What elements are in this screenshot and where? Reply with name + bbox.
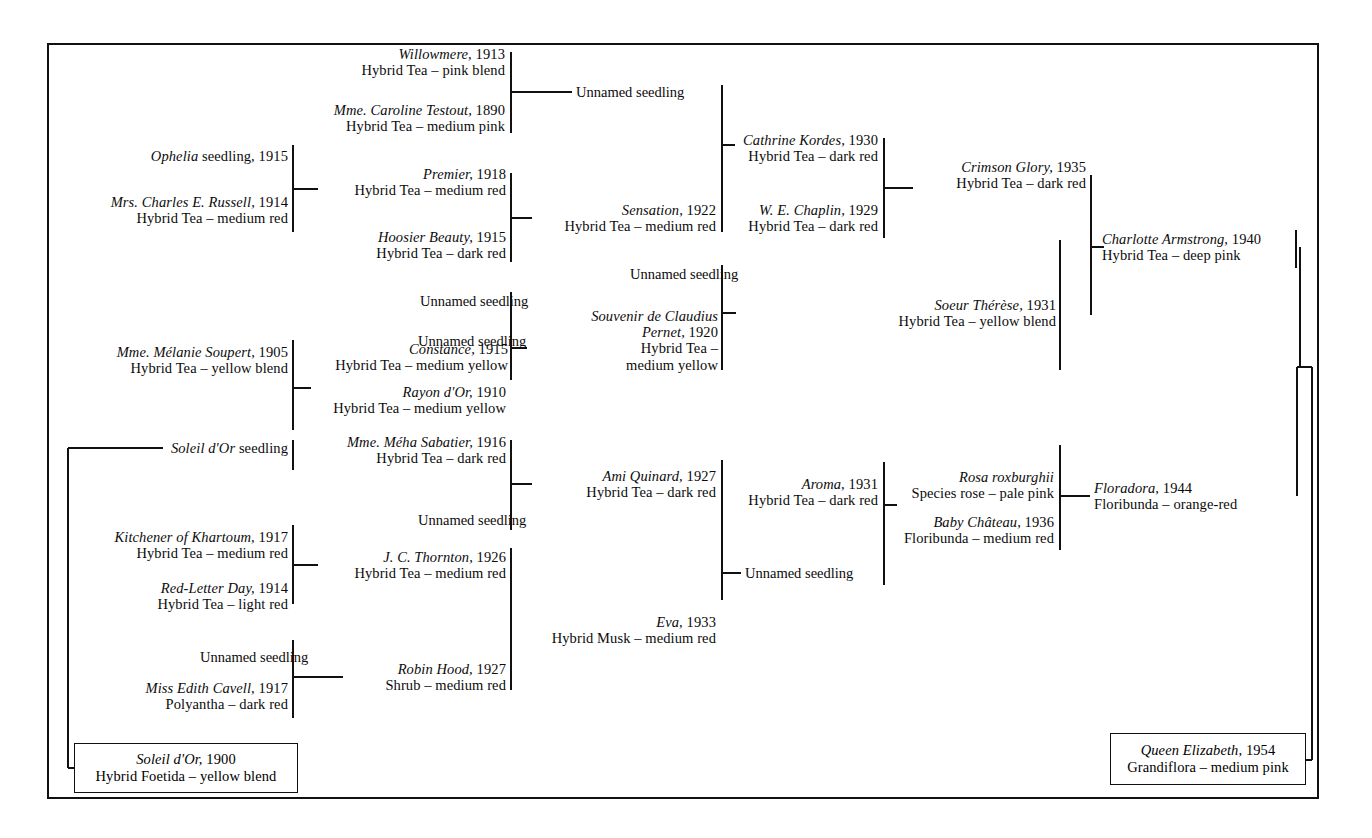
node-mme-caroline-testout-class: Hybrid Tea – medium pink [205, 118, 505, 134]
node-baby-chateau: Baby Château, 1936 Floribunda – medium r… [870, 514, 1054, 546]
node-mme-melanie-soupert-name: Mme. Mélanie Soupert, 1905 [20, 344, 288, 360]
node-rosa-roxburghii-name: Rosa roxburghii [870, 469, 1054, 485]
node-unnamed-seedling-claudius-label: Unnamed seedling [630, 266, 718, 282]
node-eva: Eva, 1933 Hybrid Musk – medium red [500, 614, 716, 646]
node-ophelia-seedling: Ophelia seedling, 1915 [40, 148, 288, 164]
node-mme-caroline-testout: Mme. Caroline Testout, 1890 Hybrid Tea –… [205, 102, 505, 134]
node-ami-quinard-class: Hybrid Tea – dark red [530, 484, 716, 500]
node-hoosier-beauty-class: Hybrid Tea – dark red [300, 245, 506, 261]
pedigree-chart: Willowmere, 1913 Hybrid Tea – pink blend… [0, 0, 1372, 838]
node-mrs-charles-e-russell: Mrs. Charles E. Russell, 1914 Hybrid Tea… [20, 194, 288, 226]
node-robin-hood-class: Shrub – medium red [346, 677, 506, 693]
node-soleil-dor-class: Hybrid Foetida – yellow blend [96, 768, 277, 785]
node-soleil-dor-seedling-name: Soleil d'Or seedling [140, 440, 288, 456]
node-red-letter-day-class: Hybrid Tea – light red [20, 596, 288, 612]
node-unnamed-seedling-robinhood: Unnamed seedling [200, 649, 288, 665]
node-aroma: Aroma, 1931 Hybrid Tea – dark red [690, 476, 878, 508]
node-cathrine-kordes-class: Hybrid Tea – dark red [680, 148, 878, 164]
node-rosa-roxburghii: Rosa roxburghii Species rose – pale pink [870, 469, 1054, 501]
node-robin-hood-name: Robin Hood, 1927 [346, 661, 506, 677]
node-souvenir-de-claudius-pernet-name2: Pernet, 1920 [560, 324, 718, 340]
node-unnamed-seedling-top-label: Unnamed seedling [576, 84, 786, 100]
node-mrs-charles-e-russell-name: Mrs. Charles E. Russell, 1914 [20, 194, 288, 210]
node-premier: Premier, 1918 Hybrid Tea – medium red [300, 166, 506, 198]
node-jc-thornton: J. C. Thornton, 1926 Hybrid Tea – medium… [300, 549, 506, 581]
node-kitchener-of-khartoum-name: Kitchener of Khartoum, 1917 [20, 529, 288, 545]
node-kitchener-of-khartoum: Kitchener of Khartoum, 1917 Hybrid Tea –… [20, 529, 288, 561]
node-crimson-glory-class: Hybrid Tea – dark red [890, 175, 1086, 191]
node-unnamed-seedling-claudius: Unnamed seedling [630, 266, 718, 282]
node-soleil-dor-seedling: Soleil d'Or seedling [140, 440, 288, 456]
node-mme-meha-sabatier-name: Mme. Méha Sabatier, 1916 [300, 434, 506, 450]
node-aroma-name: Aroma, 1931 [690, 476, 878, 492]
node-jc-thornton-name: J. C. Thornton, 1926 [300, 549, 506, 565]
node-soeur-therese-name: Soeur Thérèse, 1931 [860, 297, 1056, 313]
node-miss-edith-cavell-class: Polyantha – dark red [60, 696, 288, 712]
node-rayon-dor: Rayon d'Or, 1910 Hybrid Tea – medium yel… [300, 384, 506, 416]
node-unnamed-seedling-constance: Unnamed seedling [420, 293, 508, 309]
node-charlotte-armstrong: Charlotte Armstrong, 1940 Hybrid Tea – d… [1102, 231, 1322, 263]
node-willowmere-class: Hybrid Tea – pink blend [205, 62, 505, 78]
node-unnamed-seedling-aroma-label: Unnamed seedling [745, 565, 885, 581]
node-ami-quinard-name: Ami Quinard, 1927 [530, 468, 716, 484]
node-constance-class: Hybrid Tea – medium yellow [290, 357, 508, 373]
node-crimson-glory-name: Crimson Glory, 1935 [890, 159, 1086, 175]
node-ami-quinard: Ami Quinard, 1927 Hybrid Tea – dark red [530, 468, 716, 500]
node-miss-edith-cavell: Miss Edith Cavell, 1917 Polyantha – dark… [60, 680, 288, 712]
node-unnamed-seedling-constance-label: Unnamed seedling [420, 293, 508, 309]
node-souvenir-de-claudius-pernet-class2: medium yellow [560, 356, 718, 372]
node-unnamed-seedling-rayon: Unnamed seedling [418, 333, 506, 349]
node-soeur-therese: Soeur Thérèse, 1931 Hybrid Tea – yellow … [860, 297, 1056, 329]
node-soeur-therese-class: Hybrid Tea – yellow blend [860, 313, 1056, 329]
node-unnamed-seedling-ami-label: Unnamed seedling [418, 512, 506, 528]
node-mme-meha-sabatier: Mme. Méha Sabatier, 1916 Hybrid Tea – da… [300, 434, 506, 466]
node-rayon-dor-class: Hybrid Tea – medium yellow [300, 400, 506, 416]
node-mme-meha-sabatier-class: Hybrid Tea – dark red [300, 450, 506, 466]
node-kitchener-of-khartoum-class: Hybrid Tea – medium red [20, 545, 288, 561]
node-queen-elizabeth-boxed: Queen Elizabeth, 1954 Grandiflora – medi… [1110, 733, 1306, 785]
node-w-e-chaplin-class: Hybrid Tea – dark red [680, 218, 878, 234]
node-unnamed-seedling-top: Unnamed seedling [576, 84, 786, 100]
node-baby-chateau-name: Baby Château, 1936 [870, 514, 1054, 530]
node-eva-class: Hybrid Musk – medium red [500, 630, 716, 646]
node-red-letter-day: Red-Letter Day, 1914 Hybrid Tea – light … [20, 580, 288, 612]
node-baby-chateau-class: Floribunda – medium red [870, 530, 1054, 546]
node-ophelia-seedling-name: Ophelia seedling, 1915 [40, 148, 288, 164]
node-souvenir-de-claudius-pernet-name1: Souvenir de Claudius [560, 308, 718, 324]
node-charlotte-armstrong-name: Charlotte Armstrong, 1940 [1102, 231, 1322, 247]
node-cathrine-kordes-name: Cathrine Kordes, 1930 [680, 132, 878, 148]
node-w-e-chaplin: W. E. Chaplin, 1929 Hybrid Tea – dark re… [680, 202, 878, 234]
node-hoosier-beauty-name: Hoosier Beauty, 1915 [300, 229, 506, 245]
node-unnamed-seedling-robinhood-label: Unnamed seedling [200, 649, 288, 665]
node-eva-name: Eva, 1933 [500, 614, 716, 630]
node-robin-hood: Robin Hood, 1927 Shrub – medium red [346, 661, 506, 693]
node-floradora: Floradora, 1944 Floribunda – orange-red [1094, 480, 1314, 512]
node-floradora-class: Floribunda – orange-red [1094, 496, 1314, 512]
node-soleil-dor-name: Soleil d'Or, 1900 [136, 751, 235, 768]
node-soleil-dor-boxed: Soleil d'Or, 1900 Hybrid Foetida – yello… [74, 743, 298, 793]
node-premier-name: Premier, 1918 [300, 166, 506, 182]
node-queen-elizabeth-name: Queen Elizabeth, 1954 [1141, 742, 1276, 759]
node-premier-class: Hybrid Tea – medium red [300, 182, 506, 198]
node-rosa-roxburghii-class: Species rose – pale pink [870, 485, 1054, 501]
node-jc-thornton-class: Hybrid Tea – medium red [300, 565, 506, 581]
node-mme-melanie-soupert-class: Hybrid Tea – yellow blend [20, 360, 288, 376]
node-mme-melanie-soupert: Mme. Mélanie Soupert, 1905 Hybrid Tea – … [20, 344, 288, 376]
node-crimson-glory: Crimson Glory, 1935 Hybrid Tea – dark re… [890, 159, 1086, 191]
node-mme-caroline-testout-name: Mme. Caroline Testout, 1890 [205, 102, 505, 118]
node-willowmere-name: Willowmere, 1913 [205, 46, 505, 62]
node-unnamed-seedling-rayon-label: Unnamed seedling [418, 333, 506, 349]
node-unnamed-seedling-ami: Unnamed seedling [418, 512, 506, 528]
node-w-e-chaplin-name: W. E. Chaplin, 1929 [680, 202, 878, 218]
node-aroma-class: Hybrid Tea – dark red [690, 492, 878, 508]
node-red-letter-day-name: Red-Letter Day, 1914 [20, 580, 288, 596]
node-rayon-dor-name: Rayon d'Or, 1910 [300, 384, 506, 400]
node-souvenir-de-claudius-pernet: Souvenir de Claudius Pernet, 1920 Hybrid… [560, 308, 718, 373]
node-miss-edith-cavell-name: Miss Edith Cavell, 1917 [60, 680, 288, 696]
node-floradora-name: Floradora, 1944 [1094, 480, 1314, 496]
node-charlotte-armstrong-class: Hybrid Tea – deep pink [1102, 247, 1322, 263]
node-queen-elizabeth-class: Grandiflora – medium pink [1127, 759, 1289, 776]
node-unnamed-seedling-aroma: Unnamed seedling [745, 565, 885, 581]
node-willowmere: Willowmere, 1913 Hybrid Tea – pink blend [205, 46, 505, 78]
node-souvenir-de-claudius-pernet-class1: Hybrid Tea – [560, 340, 718, 356]
